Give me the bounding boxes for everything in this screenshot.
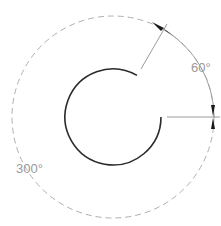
arc-dimension-diagram: 60° 300°: [0, 0, 221, 226]
extension-line-60deg: [141, 24, 167, 69]
label-60-degrees: 60°: [191, 60, 211, 75]
inner-arc-300: [65, 69, 161, 165]
arrowhead-60-left-icon: [152, 22, 164, 31]
label-300-degrees: 300°: [16, 161, 43, 176]
